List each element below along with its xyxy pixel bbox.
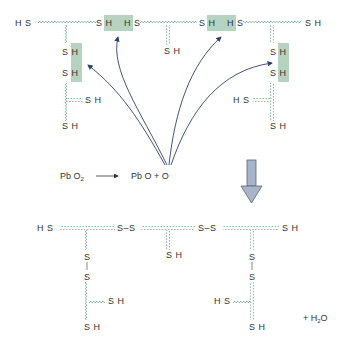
label-b3-sh2: S H — [270, 68, 287, 78]
label-b1-bottom-sh: S H — [62, 121, 79, 131]
label-bottom-sh-right: S H — [282, 223, 299, 233]
label-b3-bottom-sh: S H — [270, 121, 287, 131]
arrow-to-pair-2 — [169, 37, 221, 165]
label-sh-mid2: S H — [199, 18, 216, 28]
label-bottom-ss2: S–S — [198, 223, 217, 233]
label-hs-mid2: H S — [227, 18, 244, 28]
label-bottom-b1-s1: S — [84, 252, 91, 262]
label-bottom-b1-s2: S — [84, 272, 91, 282]
label-bottom-b3-bottom-sh: S H — [249, 322, 266, 332]
bottom-chains — [60, 226, 279, 320]
reactant-pbo2: Pb O2 — [60, 171, 84, 184]
label-b3-sh1: S H — [270, 47, 287, 57]
label-b1-sh2: S H — [62, 68, 79, 78]
reaction-products: Pb O + O — [131, 171, 169, 181]
label-bottom-b3-s2: S — [249, 272, 256, 282]
label-bottom-hs-left: H S — [37, 223, 54, 233]
label-sh-mid1: S H — [96, 18, 113, 28]
water-product: + H2O — [303, 313, 328, 326]
disulfide-oxidation-diagram: H S S H H S S H S H H S S H S H S H S H … — [0, 0, 341, 341]
label-sh-right: S H — [305, 18, 322, 28]
label-b1-sh1: S H — [62, 47, 79, 57]
label-b1-side-sh: S H — [85, 95, 102, 105]
label-bottom-ss1: S–S — [117, 223, 136, 233]
label-hs-left: H S — [15, 18, 32, 28]
label-bottom-b3-side-hs: H S — [214, 296, 231, 306]
label-bottom-sh-mid: S H — [166, 250, 183, 260]
label-bottom-b1-side-sh: S H — [108, 296, 125, 306]
label-sh-branch2: S H — [164, 46, 181, 56]
arrow-to-branch-3 — [171, 63, 272, 165]
big-down-arrow — [241, 160, 262, 203]
label-b3-side-hs: H S — [233, 95, 250, 105]
arrow-to-branch-1 — [88, 65, 165, 165]
label-bottom-b1-bottom-sh: S H — [84, 322, 101, 332]
label-hs-mid1: H S — [124, 18, 141, 28]
label-bottom-b3-s1: S — [249, 252, 256, 262]
